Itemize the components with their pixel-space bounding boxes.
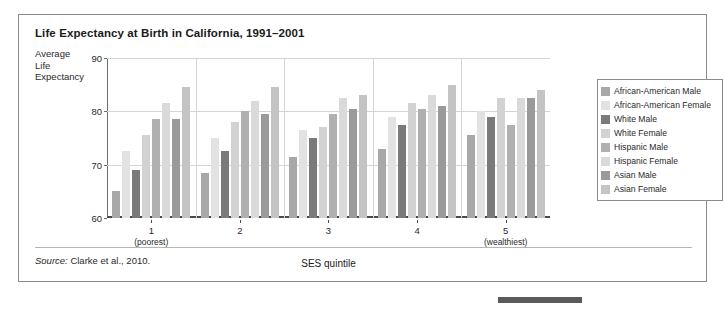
legend-swatch-icon — [601, 171, 610, 180]
bar[interactable] — [289, 157, 297, 218]
bar[interactable] — [448, 85, 456, 218]
bar[interactable] — [309, 138, 317, 218]
bar[interactable] — [142, 135, 150, 218]
legend-label: African-American Male — [614, 86, 701, 96]
legend-swatch-icon — [601, 87, 610, 96]
legend-label: Asian Female — [614, 184, 667, 194]
bar[interactable] — [162, 103, 170, 218]
bar[interactable] — [329, 114, 337, 218]
legend-item[interactable]: White Female — [601, 126, 718, 140]
legend-label: Hispanic Female — [614, 156, 678, 166]
plot-area: 60708090 — [107, 58, 550, 218]
bar[interactable] — [349, 109, 357, 218]
bar-group-quintile-5 — [461, 58, 550, 218]
legend-swatch-icon — [601, 129, 610, 138]
bar[interactable] — [271, 87, 279, 218]
legend-label: White Female — [614, 128, 667, 138]
bar-group-quintile-4 — [373, 58, 462, 218]
x-tick-sublabel-5: (wealthiest) — [461, 237, 550, 247]
figure-panel: Life Expectancy at Birth in California, … — [18, 14, 707, 282]
legend-item[interactable]: African-American Male — [601, 84, 718, 98]
legend-label: African-American Female — [614, 100, 711, 110]
y-axis-title-line-2: Expectancy — [35, 71, 95, 83]
bar[interactable] — [477, 111, 485, 218]
bar[interactable] — [319, 127, 327, 218]
x-axis-title: SES quintile — [107, 258, 550, 269]
y-axis-title-line-0: Average — [35, 48, 95, 60]
bar[interactable] — [112, 191, 120, 218]
x-tick-mark-3 — [328, 220, 329, 223]
bar-group-quintile-2 — [196, 58, 285, 218]
x-tick-mark-1 — [151, 220, 152, 223]
legend-item[interactable]: Hispanic Female — [601, 154, 718, 168]
legend-item[interactable]: White Male — [601, 112, 718, 126]
bar[interactable] — [182, 87, 190, 218]
y-tick-mark-60 — [104, 218, 107, 219]
bar[interactable] — [428, 95, 436, 218]
source-divider — [35, 247, 692, 248]
bar[interactable] — [231, 122, 239, 218]
bar[interactable] — [359, 95, 367, 218]
x-tick-group-4: 4 — [373, 220, 462, 254]
bar[interactable] — [132, 170, 140, 218]
bar-group-quintile-1 — [107, 58, 196, 218]
y-tick-label-60: 60 — [91, 213, 102, 224]
bar[interactable] — [537, 90, 545, 218]
legend-label: Asian Male — [614, 170, 657, 180]
legend-swatch-icon — [601, 185, 610, 194]
x-tick-mark-4 — [417, 220, 418, 223]
x-tick-mark-2 — [240, 220, 241, 223]
bar[interactable] — [418, 109, 426, 218]
x-tick-label-5: 5 — [461, 225, 550, 236]
y-tick-label-70: 70 — [91, 159, 102, 170]
legend-item[interactable]: Asian Female — [601, 182, 718, 196]
x-axis-ticks: 1(poorest)2345(wealthiest) — [107, 220, 550, 254]
y-axis-title: AverageLifeExpectancy — [35, 48, 95, 83]
page-footer-mark — [498, 297, 582, 303]
bar[interactable] — [497, 98, 505, 218]
bar-groups — [107, 58, 550, 218]
bar-group-quintile-3 — [284, 58, 373, 218]
bar[interactable] — [152, 119, 160, 218]
x-tick-label-3: 3 — [284, 225, 373, 236]
legend-label: White Male — [614, 114, 657, 124]
bar[interactable] — [507, 125, 515, 218]
bar[interactable] — [172, 119, 180, 218]
bar[interactable] — [251, 101, 259, 218]
x-tick-mark-5 — [506, 220, 507, 223]
bar[interactable] — [378, 149, 386, 218]
x-tick-group-3: 3 — [284, 220, 373, 254]
bar[interactable] — [122, 151, 130, 218]
chart-title: Life Expectancy at Birth in California, … — [35, 27, 305, 39]
bar[interactable] — [221, 151, 229, 218]
x-tick-label-1: 1 — [107, 225, 196, 236]
x-tick-sublabel-1: (poorest) — [107, 237, 196, 247]
bar[interactable] — [487, 117, 495, 218]
legend-label: Hispanic Male — [614, 142, 668, 152]
bar[interactable] — [517, 98, 525, 218]
bar[interactable] — [398, 125, 406, 218]
legend: African-American MaleAfrican-American Fe… — [597, 79, 723, 201]
bar[interactable] — [299, 130, 307, 218]
x-tick-group-2: 2 — [196, 220, 285, 254]
bar[interactable] — [408, 103, 416, 218]
source-note: Source: Clarke et al., 2010. — [35, 255, 150, 266]
legend-swatch-icon — [601, 157, 610, 166]
bar[interactable] — [527, 98, 535, 218]
source-label: Source: — [35, 255, 68, 266]
legend-item[interactable]: Asian Male — [601, 168, 718, 182]
bar[interactable] — [467, 135, 475, 218]
bar[interactable] — [201, 173, 209, 218]
x-tick-group-1: 1(poorest) — [107, 220, 196, 254]
legend-item[interactable]: Hispanic Male — [601, 140, 718, 154]
bar[interactable] — [339, 98, 347, 218]
x-tick-group-5: 5(wealthiest) — [461, 220, 550, 254]
bar[interactable] — [388, 117, 396, 218]
legend-swatch-icon — [601, 143, 610, 152]
bar[interactable] — [241, 111, 249, 218]
bar[interactable] — [211, 138, 219, 218]
bar[interactable] — [261, 114, 269, 218]
legend-item[interactable]: African-American Female — [601, 98, 718, 112]
bar[interactable] — [438, 106, 446, 218]
legend-swatch-icon — [601, 115, 610, 124]
